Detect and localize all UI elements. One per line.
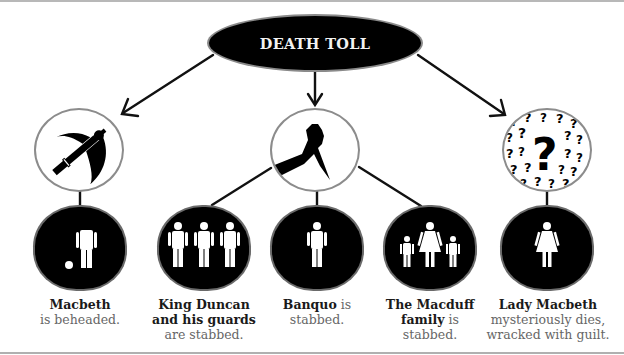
question-marks-icon: ?? ?? ?? ?? ?? ?? ?? ?? ?? ?? ? ? [504, 110, 590, 190]
victim-duncan-node [159, 207, 249, 289]
victim-name: The Macduff [370, 297, 490, 312]
victim-fate: stabbed. [262, 312, 372, 327]
bottom-rule [0, 352, 624, 354]
man-icon [297, 220, 337, 276]
svg-text:?: ? [540, 111, 547, 125]
victim-fate-inline: is [449, 312, 459, 327]
knife-in-hand-icon [272, 110, 358, 190]
three-men-icon [164, 220, 244, 276]
caption-lady-macbeth: Lady Macbeth mysteriously dies, wracked … [482, 297, 614, 342]
caption-macduff: The Macduff family is stabbed. [370, 297, 490, 342]
victim-name: King Duncan [139, 297, 269, 312]
cause-knife-node [270, 108, 360, 192]
cause-axe-node [34, 108, 124, 192]
svg-text:?: ? [518, 145, 525, 159]
victim-name: Lady Macbeth [482, 297, 614, 312]
svg-text:?: ? [564, 128, 572, 143]
svg-text:?: ? [524, 160, 532, 175]
victim-name: Macbeth [20, 297, 140, 312]
svg-text:?: ? [556, 111, 564, 126]
victim-fate-inline: is [341, 297, 351, 312]
victim-lady-macbeth-node [502, 207, 592, 289]
svg-text:?: ? [506, 146, 514, 161]
beheaded-man-icon [50, 220, 110, 276]
victim-macbeth-node [35, 207, 125, 289]
victim-fate: mysteriously dies, [482, 312, 614, 327]
svg-text:?: ? [518, 125, 526, 141]
svg-text:?: ? [564, 146, 572, 161]
woman-icon [527, 220, 567, 276]
diagram-title: DEATH TOLL [260, 35, 370, 52]
caption-duncan: King Duncan and his guards are stabbed. [139, 297, 269, 342]
caption-banquo: Banquo is stabbed. [262, 297, 372, 327]
victim-macduff-family-node [385, 207, 475, 289]
svg-text:?: ? [510, 162, 518, 177]
svg-text:?: ? [576, 151, 583, 165]
victim-fate: stabbed. [370, 327, 490, 342]
svg-text:?: ? [506, 131, 513, 145]
death-toll-title-node: DEATH TOLL [209, 16, 421, 70]
caption-macbeth: Macbeth is beheaded. [20, 297, 140, 327]
svg-text:?: ? [558, 163, 565, 177]
svg-text:?: ? [524, 110, 532, 125]
victim-fate-cont: wracked with guilt. [482, 327, 614, 342]
victim-banquo-node [272, 207, 362, 289]
victim-name: Banquo [283, 297, 337, 312]
svg-text:?: ? [576, 133, 583, 147]
victim-fate: are stabbed. [139, 327, 269, 342]
svg-text:?: ? [532, 129, 558, 180]
victim-name-cont: family [401, 312, 444, 327]
axe-icon [36, 110, 122, 190]
victim-fate: is beheaded. [20, 312, 140, 327]
svg-text:?: ? [570, 164, 578, 179]
family-icon [395, 220, 465, 276]
cause-mystery-node: ?? ?? ?? ?? ?? ?? ?? ?? ?? ?? ? ? [502, 108, 592, 192]
victim-name-cont: and his guards [139, 312, 269, 327]
